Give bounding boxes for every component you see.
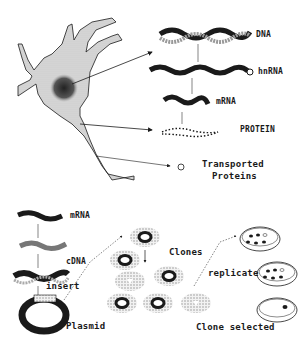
petri-dish-master	[240, 227, 280, 251]
label-cdna: cDNA	[66, 257, 86, 266]
label-hnrna: hnRNA	[258, 67, 283, 76]
protein-chain-icon	[162, 128, 218, 136]
neuron-cell-illustration	[18, 18, 134, 180]
label-dna: DNA	[256, 30, 271, 39]
axon-to-transported-arrow	[96, 156, 170, 166]
label-protein: PROTEIN	[240, 125, 275, 134]
label-insert: insert	[46, 281, 80, 291]
transported-protein-icon	[178, 164, 184, 170]
clone-colony	[130, 227, 160, 247]
label-transported: Transported	[202, 159, 264, 169]
clone-colony	[107, 293, 137, 313]
petri-dish-replicate	[257, 262, 297, 286]
plasmid-ring-icon	[22, 295, 66, 331]
label-mrna-top: mRNA	[216, 97, 236, 106]
bottom-mrna-strand-icon	[18, 213, 62, 219]
clone-colony	[110, 250, 140, 270]
clone-colony	[143, 293, 173, 313]
dna-helix-icon	[160, 30, 250, 42]
cdna-strand-icon	[20, 243, 66, 249]
clone-to-plates-arrow	[194, 236, 236, 286]
clone-colony	[115, 271, 145, 291]
label-clones: Clones	[169, 247, 203, 257]
clone-colony	[181, 293, 211, 313]
hnrna-strand-icon	[150, 67, 253, 75]
label-plasmid: Plasmid	[66, 321, 105, 331]
petri-dish-selected	[257, 298, 297, 322]
mrna-strand-icon	[164, 97, 208, 104]
diagram-canvas	[0, 0, 308, 344]
clone-colony	[154, 266, 184, 286]
label-replicate: replicate	[208, 268, 259, 278]
label-clone-selected: Clone selected	[196, 322, 275, 332]
label-mrna-bottom: mRNA	[70, 211, 90, 220]
clone-colonies	[107, 227, 211, 313]
cytoplasm-to-protein-arrow	[80, 124, 152, 130]
label-proteins: Proteins	[212, 171, 257, 181]
